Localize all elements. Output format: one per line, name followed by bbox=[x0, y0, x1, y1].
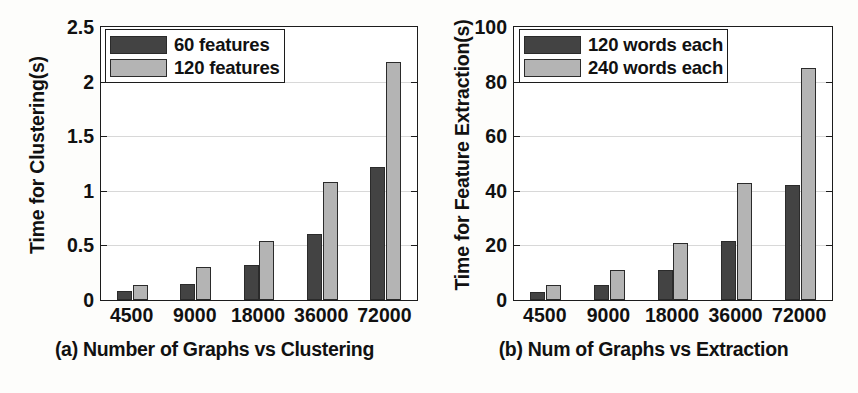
bar bbox=[133, 285, 148, 300]
y-axis-tick-label: 1.5 bbox=[67, 125, 94, 148]
x-axis-tick-label: 4500 bbox=[110, 304, 153, 327]
bar bbox=[530, 292, 545, 300]
y-axis-tick-label: 2 bbox=[83, 70, 94, 93]
y-axis-tick-label: 20 bbox=[485, 234, 507, 257]
y-axis-tick bbox=[826, 136, 832, 137]
y-axis-tick bbox=[826, 82, 832, 83]
legend-b: 120 words each 240 words each bbox=[519, 29, 728, 83]
y-axis-tick bbox=[514, 245, 520, 246]
y-axis-tick-label: 80 bbox=[485, 70, 507, 93]
legend-label: 240 words each bbox=[588, 57, 723, 79]
bar bbox=[244, 265, 259, 300]
y-axis-tick-label: 0 bbox=[496, 289, 507, 312]
legend-swatch-icon bbox=[524, 59, 581, 77]
y-axis-tick-label: 40 bbox=[485, 179, 507, 202]
y-axis-tick bbox=[411, 82, 417, 83]
bar bbox=[323, 182, 338, 300]
bar bbox=[259, 241, 274, 300]
legend-swatch-icon bbox=[524, 36, 581, 54]
bar bbox=[721, 241, 736, 300]
legend-item: 120 words each bbox=[524, 33, 723, 56]
bar bbox=[307, 234, 322, 300]
legend-label: 120 features bbox=[174, 57, 280, 79]
bar bbox=[196, 267, 211, 300]
y-axis-tick bbox=[514, 136, 520, 137]
x-axis-tick-label: 9000 bbox=[173, 304, 216, 327]
plot-area-a: 60 features 120 features 00.511.522.5 bbox=[100, 26, 418, 301]
legend-item: 120 features bbox=[110, 56, 280, 79]
legend-item: 240 words each bbox=[524, 56, 723, 79]
plot-area-b: 120 words each 240 words each 0204060801… bbox=[513, 26, 833, 301]
x-axis-tick-label: 36000 bbox=[708, 304, 762, 327]
y-axis-tick bbox=[411, 191, 417, 192]
bar bbox=[801, 68, 816, 300]
y-axis-tick bbox=[514, 191, 520, 192]
y-axis-tick-label: 0 bbox=[83, 289, 94, 312]
legend-item: 60 features bbox=[110, 33, 280, 56]
bar bbox=[594, 285, 609, 300]
y-axis-tick bbox=[826, 191, 832, 192]
x-axis-tick-label: 36000 bbox=[294, 304, 348, 327]
x-axis-tick-label: 72000 bbox=[772, 304, 826, 327]
bar bbox=[737, 183, 752, 300]
x-axis-tick-label: 9000 bbox=[587, 304, 630, 327]
y-axis-tick bbox=[411, 245, 417, 246]
y-axis-tick bbox=[101, 245, 107, 246]
y-axis-tick-label: 60 bbox=[485, 125, 507, 148]
bar bbox=[785, 185, 800, 300]
bar bbox=[546, 285, 561, 300]
figure-container: Time for Clustering(s) 60 features 120 f… bbox=[0, 0, 858, 393]
legend-label: 120 words each bbox=[588, 34, 723, 56]
y-axis-tick bbox=[101, 191, 107, 192]
legend-swatch-icon bbox=[110, 59, 167, 77]
panel-caption-a: (a) Number of Graphs vs Clustering bbox=[0, 338, 429, 361]
y-axis-title-b: Time for Feature Extraction(s) bbox=[451, 5, 479, 305]
y-axis-title-a: Time for Clustering(s) bbox=[26, 5, 54, 305]
y-axis-tick-label: 2.5 bbox=[67, 16, 94, 39]
y-axis-tick-label: 0.5 bbox=[67, 234, 94, 257]
x-axis-tick-label: 4500 bbox=[523, 304, 566, 327]
gridline bbox=[514, 136, 832, 137]
y-axis-tick bbox=[411, 136, 417, 137]
bar bbox=[386, 62, 401, 300]
bar bbox=[180, 284, 195, 300]
chart-panel-b: Time for Feature Extraction(s) 120 words… bbox=[429, 0, 858, 393]
bar bbox=[610, 270, 625, 300]
x-axis-tick-label: 72000 bbox=[357, 304, 411, 327]
bar bbox=[673, 243, 688, 300]
bar bbox=[658, 270, 673, 300]
y-axis-tick-label: 100 bbox=[474, 16, 507, 39]
chart-panel-a: Time for Clustering(s) 60 features 120 f… bbox=[0, 0, 429, 393]
y-axis-tick bbox=[826, 245, 832, 246]
y-axis-tick bbox=[101, 136, 107, 137]
legend-label: 60 features bbox=[174, 34, 270, 56]
legend-a: 60 features 120 features bbox=[105, 29, 285, 83]
gridline bbox=[101, 136, 417, 137]
panel-caption-b: (b) Num of Graphs vs Extraction bbox=[429, 338, 858, 361]
x-axis-tick-label: 18000 bbox=[645, 304, 699, 327]
y-axis-tick-label: 1 bbox=[83, 179, 94, 202]
legend-swatch-icon bbox=[110, 36, 167, 54]
bar bbox=[370, 167, 385, 300]
x-axis-tick-label: 18000 bbox=[231, 304, 285, 327]
bar bbox=[117, 291, 132, 300]
